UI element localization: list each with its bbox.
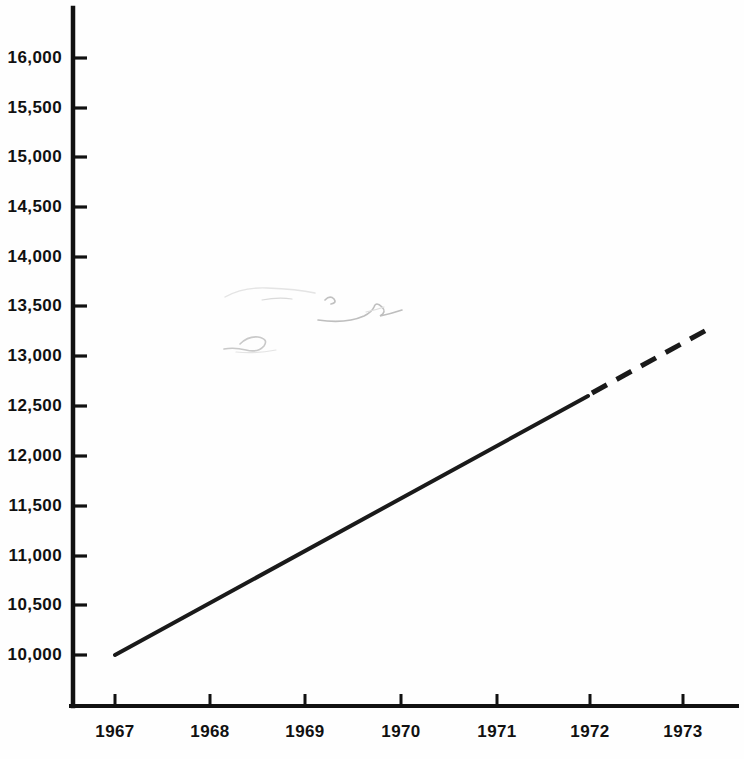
series-line-projected (592, 327, 712, 393)
chart-container: 16,000 15,500 15,000 14,500 14,000 13,50… (0, 0, 744, 759)
xtick-label: 1970 (361, 723, 441, 740)
xtick-label: 1968 (170, 723, 250, 740)
ytick-label: 15,500 (0, 99, 62, 116)
ytick-label: 13,000 (0, 347, 62, 364)
ytick-label: 11,500 (0, 497, 62, 514)
xtick-label: 1971 (457, 723, 537, 740)
xtick-label: 1973 (643, 723, 723, 740)
xtick-label: 1972 (550, 723, 630, 740)
ytick-label: 13,500 (0, 297, 62, 314)
chart-plot-area (0, 0, 744, 759)
scan-artifact-smudges (224, 288, 402, 353)
ytick-label: 10,500 (0, 596, 62, 613)
series-line-actual (115, 396, 588, 655)
ytick-label: 16,000 (0, 49, 62, 66)
ytick-label: 15,000 (0, 148, 62, 165)
ytick-label: 10,000 (0, 646, 62, 663)
ytick-label: 12,000 (0, 447, 62, 464)
ytick-label: 14,500 (0, 198, 62, 215)
ytick-label: 11,000 (0, 547, 62, 564)
xtick-label: 1967 (75, 723, 155, 740)
ytick-label: 12,500 (0, 397, 62, 414)
ytick-label: 14,000 (0, 248, 62, 265)
xtick-label: 1969 (265, 723, 345, 740)
